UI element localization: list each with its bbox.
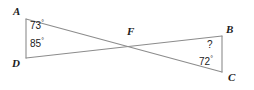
vertex-label-A: A (13, 6, 20, 17)
geometry-diagram: A D F B C 73° 85° ? 72° (0, 0, 254, 90)
vertex-label-F: F (127, 26, 134, 37)
angle-label-B-unknown: ? (207, 40, 213, 50)
segment-DB (26, 36, 222, 58)
degree-symbol-C: ° (210, 55, 213, 62)
segment-AC (26, 19, 222, 72)
vertex-label-B: B (226, 24, 233, 35)
angle-label-C: 72° (199, 57, 213, 67)
vertex-label-D: D (12, 58, 20, 69)
vertex-label-C: C (228, 72, 235, 83)
angle-value-C: 72 (199, 56, 210, 67)
degree-symbol-D: ° (41, 37, 44, 44)
angle-label-A: 73° (30, 21, 44, 31)
angle-label-D: 85° (30, 39, 44, 49)
degree-symbol-A: ° (41, 19, 44, 26)
angle-value-D: 85 (30, 38, 41, 49)
angle-value-A: 73 (30, 20, 41, 31)
